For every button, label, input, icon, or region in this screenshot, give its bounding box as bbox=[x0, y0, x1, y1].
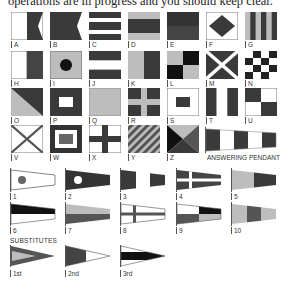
flag-n bbox=[245, 51, 277, 79]
substitutes-heading: SUBSTITUTES bbox=[10, 237, 57, 244]
substitute-1 bbox=[10, 245, 56, 271]
flag-label: D bbox=[128, 41, 136, 48]
flag-label: O bbox=[11, 117, 19, 124]
flag-label: K bbox=[128, 80, 135, 87]
flag-j bbox=[89, 51, 121, 79]
pendant-label: 8 bbox=[120, 227, 127, 234]
substitute-label: 3rd bbox=[120, 270, 132, 277]
flag-b bbox=[50, 12, 82, 40]
flag-y bbox=[128, 125, 160, 153]
flag-label: P bbox=[50, 117, 57, 124]
pendant-label: 5 bbox=[231, 193, 238, 200]
flag-label: Y bbox=[128, 154, 135, 161]
flag-label: W bbox=[50, 154, 59, 161]
pendant-label: 10 bbox=[231, 227, 241, 234]
flag-label: B bbox=[50, 41, 57, 48]
flag-label: M bbox=[206, 80, 214, 87]
flag-i bbox=[50, 51, 82, 79]
substitute-label: 2nd bbox=[65, 270, 79, 277]
substitute-label: 1st bbox=[10, 270, 22, 277]
flag-d bbox=[128, 12, 160, 40]
flag-label: N bbox=[245, 80, 253, 87]
flag-label: I bbox=[50, 80, 55, 87]
flag-label: L bbox=[167, 80, 174, 87]
pendant-9 bbox=[176, 202, 222, 230]
flag-label: E bbox=[167, 41, 174, 48]
flag-label: S bbox=[167, 117, 174, 124]
flag-a bbox=[11, 12, 43, 40]
flag-label: A bbox=[11, 41, 18, 48]
flag-label: Z bbox=[167, 154, 174, 161]
pendant-label: 2 bbox=[65, 193, 72, 200]
pendant-label: 7 bbox=[65, 227, 72, 234]
flag-v bbox=[11, 125, 43, 153]
flag-label: C bbox=[89, 41, 97, 48]
answering-pendant-label: ANSWERING PENDANT bbox=[205, 154, 280, 161]
flag-label: X bbox=[89, 154, 96, 161]
flag-t bbox=[206, 88, 238, 116]
flag-f bbox=[206, 12, 238, 40]
flag-x bbox=[89, 125, 121, 153]
pendant-10 bbox=[231, 202, 277, 230]
flag-label: T bbox=[206, 117, 213, 124]
flag-label: H bbox=[11, 80, 19, 87]
flag-c bbox=[89, 12, 121, 40]
flag-label: U bbox=[245, 117, 253, 124]
answering-pendant bbox=[205, 127, 277, 157]
flag-w bbox=[50, 125, 82, 153]
intro-text: operations are in progress and you shoul… bbox=[8, 0, 273, 9]
flag-o bbox=[11, 88, 43, 116]
flag-label: Q bbox=[89, 117, 97, 124]
pendant-label: 6 bbox=[10, 227, 17, 234]
flag-q bbox=[89, 88, 121, 116]
flag-u bbox=[245, 88, 277, 116]
flag-e bbox=[167, 12, 199, 40]
flag-l bbox=[167, 51, 199, 79]
flag-p bbox=[50, 88, 82, 116]
flag-k bbox=[128, 51, 160, 79]
pendant-label: 3 bbox=[120, 193, 127, 200]
flag-z bbox=[167, 125, 199, 153]
pendant-label: 1 bbox=[10, 193, 17, 200]
substitute-2 bbox=[65, 245, 111, 271]
pendant-2 bbox=[65, 168, 111, 196]
pendant-7 bbox=[65, 202, 111, 230]
flag-label: R bbox=[128, 117, 136, 124]
flag-label: G bbox=[245, 41, 253, 48]
pendant-label: 9 bbox=[176, 227, 183, 234]
pendant-5 bbox=[231, 168, 277, 196]
flag-label: V bbox=[11, 154, 18, 161]
flag-label: F bbox=[206, 41, 213, 48]
flag-m bbox=[206, 51, 238, 79]
flag-r bbox=[128, 88, 160, 116]
pendant-label: 4 bbox=[176, 193, 183, 200]
pendant-6 bbox=[10, 202, 56, 230]
flag-h bbox=[11, 51, 43, 79]
flag-g bbox=[245, 12, 277, 40]
pendant-1 bbox=[10, 168, 56, 196]
pendant-8 bbox=[120, 202, 166, 230]
pendant-3 bbox=[120, 168, 166, 196]
flag-label: J bbox=[89, 80, 95, 87]
substitute-3 bbox=[120, 245, 166, 271]
flag-s bbox=[167, 88, 199, 116]
pendant-4 bbox=[176, 168, 222, 196]
